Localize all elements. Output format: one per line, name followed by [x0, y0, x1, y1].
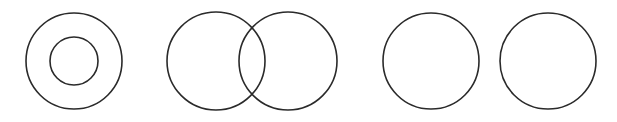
circle-relationship-diagram	[0, 0, 617, 122]
separate-left-circle	[383, 13, 479, 109]
separate-right-circle	[500, 13, 596, 109]
intersecting-left-circle	[167, 12, 265, 110]
intersecting-circles-group	[167, 12, 337, 110]
concentric-outer-circle	[26, 13, 122, 109]
intersecting-right-circle	[239, 12, 337, 110]
concentric-inner-circle	[50, 37, 98, 85]
concentric-circles-group	[26, 13, 122, 109]
separate-circles-group	[383, 13, 596, 109]
